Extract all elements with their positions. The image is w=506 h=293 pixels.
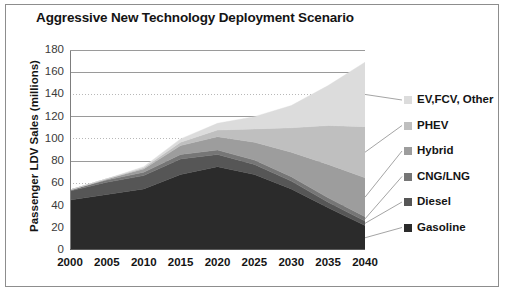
y-tick-label: 40 — [30, 200, 64, 212]
y-tick-label: 140 — [30, 89, 64, 101]
legend-swatch-icon — [404, 224, 412, 232]
legend-swatch-icon — [404, 147, 412, 155]
legend-item-label: EV,FCV, Other — [417, 94, 494, 106]
legend-item-label: PHEV — [417, 120, 448, 132]
y-tick-label: 60 — [30, 178, 64, 190]
y-tick-label: 160 — [30, 66, 64, 78]
legend-swatch-icon — [404, 122, 412, 130]
stacked-area-plot — [70, 50, 365, 250]
y-axis-ticks: 020406080100120140160180 — [30, 0, 64, 293]
y-tick-label: 100 — [30, 133, 64, 145]
legend-swatch-icon — [404, 96, 412, 104]
legend-swatch-icon — [404, 173, 412, 181]
chart-figure: Aggressive New Technology Deployment Sce… — [0, 0, 506, 293]
legend-item[interactable]: Diesel — [404, 194, 451, 210]
legend-item[interactable]: CNG/LNG — [404, 169, 470, 185]
legend-item[interactable]: Gasoline — [404, 220, 466, 236]
legend-item[interactable]: PHEV — [404, 118, 448, 134]
legend-swatch-icon — [404, 198, 412, 206]
legend-item-label: Gasoline — [417, 222, 466, 234]
y-tick-label: 180 — [30, 44, 64, 56]
y-tick-label: 20 — [30, 222, 64, 234]
y-tick-label: 120 — [30, 111, 64, 123]
legend-item[interactable]: EV,FCV, Other — [404, 92, 494, 108]
y-tick-label: 80 — [30, 155, 64, 167]
legend-item[interactable]: Hybrid — [404, 143, 453, 159]
legend-item-label: Diesel — [417, 196, 451, 208]
legend-item-label: CNG/LNG — [417, 171, 470, 183]
plot-area — [70, 50, 365, 250]
legend-item-label: Hybrid — [417, 145, 453, 157]
x-tick-label: 2040 — [342, 256, 388, 268]
x-axis-ticks: 200020052010201520202025203020352040 — [0, 256, 506, 276]
y-tick-label: 0 — [30, 244, 64, 256]
